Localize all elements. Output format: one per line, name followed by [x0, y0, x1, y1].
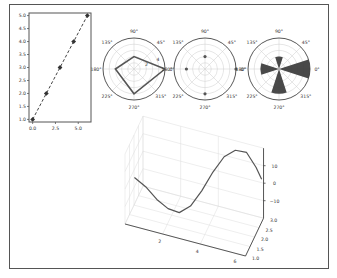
- x-tick-label: 2: [158, 239, 161, 244]
- y-tick-label: 3.0: [270, 218, 277, 223]
- ytick-label: 5.0: [19, 13, 26, 18]
- theta-tick-label: 45°: [157, 40, 165, 45]
- diamond-marker: [58, 65, 63, 70]
- line-plot: 1.01.52.02.53.03.54.04.55.0 0.02.55.0: [19, 13, 91, 131]
- theta-tick-label: 225°: [247, 94, 258, 99]
- xtick-label: 0.0: [29, 126, 36, 131]
- polar-bar: [260, 63, 279, 74]
- 3d-line-plot: 2461.01.52.02.53.0−10010: [125, 116, 279, 264]
- polar-bar: [271, 69, 286, 94]
- theta-tick-label: 180°: [90, 67, 101, 72]
- x-tick-label: 6: [234, 259, 237, 264]
- y-tick-label: 1.0: [252, 256, 259, 261]
- theta-tick-label: 135°: [102, 40, 113, 45]
- polar-scatter-plot: 0°45°90°135°180°225°270°315°: [161, 29, 245, 110]
- theta-tick-label: 90°: [201, 29, 209, 34]
- theta-tick-label: 0°: [314, 67, 319, 72]
- ytick-label: 1.0: [19, 117, 26, 122]
- diamond-marker: [71, 39, 76, 44]
- y-tick-label: 2.0: [261, 237, 268, 242]
- diamond-marker: [30, 117, 35, 122]
- figure-canvas: 1.01.52.02.53.03.54.04.55.0 0.02.55.0 0°…: [0, 0, 337, 278]
- polar-bar: [275, 57, 283, 69]
- theta-tick-label: 45°: [228, 40, 236, 45]
- x-tick-label: 4: [196, 249, 199, 254]
- polar-scatter-point: [185, 67, 188, 70]
- theta-tick-label: 135°: [247, 40, 258, 45]
- theta-tick-label: 315°: [300, 94, 311, 99]
- theta-tick-label: 270°: [199, 105, 210, 110]
- polar-bar-plot: 0°45°90°135°180°225°270°315°: [235, 29, 319, 110]
- polar-scatter-point: [203, 92, 206, 95]
- theta-tick-label: 270°: [273, 105, 284, 110]
- z-tick-label: 10: [272, 164, 278, 169]
- line-plot-yticks: 1.01.52.02.53.03.54.04.55.0: [19, 13, 29, 122]
- ytick-label: 4.5: [19, 26, 26, 31]
- line-plot-xticks: 0.02.55.0: [29, 122, 82, 131]
- diamond-marker: [85, 13, 90, 18]
- diamond-marker: [44, 91, 49, 96]
- y-tick-label: 2.5: [265, 228, 272, 233]
- ytick-label: 3.5: [19, 52, 26, 57]
- theta-tick-label: 135°: [173, 40, 184, 45]
- r-tick-label: 4: [156, 57, 159, 62]
- ytick-label: 1.5: [19, 104, 26, 109]
- theta-tick-label: 315°: [155, 94, 166, 99]
- theta-tick-label: 225°: [102, 94, 113, 99]
- z-tick-label: 0: [273, 181, 276, 186]
- ytick-label: 2.0: [19, 91, 26, 96]
- z-tick-label: −10: [270, 199, 280, 204]
- x-axis: [125, 224, 246, 256]
- theta-tick-label: 90°: [130, 29, 138, 34]
- xtick-label: 5.0: [75, 126, 82, 131]
- ytick-label: 4.0: [19, 39, 26, 44]
- ytick-label: 3.0: [19, 65, 26, 70]
- theta-tick-label: 180°: [161, 67, 172, 72]
- theta-tick-label: 45°: [302, 40, 310, 45]
- ytick-label: 2.5: [19, 78, 26, 83]
- theta-tick-label: 180°: [235, 67, 246, 72]
- polar-bar: [279, 59, 310, 78]
- theta-tick-label: 225°: [173, 94, 184, 99]
- line-plot-markers: [30, 13, 90, 122]
- theta-tick-label: 315°: [226, 94, 237, 99]
- theta-tick-label: 90°: [275, 29, 283, 34]
- xtick-label: 2.5: [52, 126, 59, 131]
- 3d-line-series: [134, 150, 261, 212]
- theta-tick-label: 270°: [128, 105, 139, 110]
- y-tick-label: 1.5: [256, 247, 263, 252]
- polar-scatter-point: [203, 55, 206, 58]
